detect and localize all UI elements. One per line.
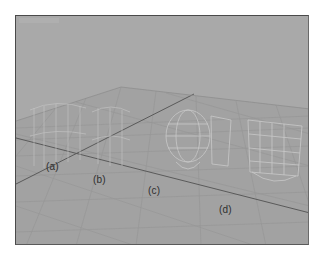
ground-plane (16, 87, 309, 245)
object-label-c: (c) (148, 186, 160, 196)
perspective-scene (16, 16, 309, 245)
object-label-a: (a) (46, 162, 59, 172)
object-label-d: (d) (219, 205, 232, 215)
object-label-b: (b) (93, 175, 106, 185)
3d-viewport[interactable]: (a) (b) (c) (d) (15, 15, 309, 245)
